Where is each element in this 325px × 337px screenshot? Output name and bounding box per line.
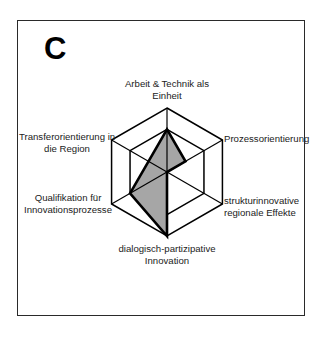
axis-label-line: Transferorientierung in bbox=[19, 131, 115, 143]
axis-label-dialogisch: dialogisch-partizipative Innovation bbox=[104, 243, 230, 267]
radar-spokes bbox=[112, 108, 223, 236]
axis-label-prozessorientierung: Prozessorientierung bbox=[224, 133, 309, 145]
axis-label-line: Einheit bbox=[104, 90, 230, 102]
axis-label-line: Innovation bbox=[104, 255, 230, 267]
axis-label-line: Qualifikation für bbox=[24, 192, 112, 204]
axis-label-line: Prozessorientierung bbox=[224, 133, 309, 145]
axis-label-line: Arbeit & Technik als bbox=[104, 78, 230, 90]
radar-chart bbox=[0, 0, 325, 337]
axis-label-line: die Region bbox=[19, 143, 115, 155]
axis-label-line: dialogisch-partizipative bbox=[104, 243, 230, 255]
axis-label-strukturinnovative: strukturinnovative regionale Effekte bbox=[224, 195, 294, 219]
axis-label-line: regionale Effekte bbox=[224, 207, 294, 219]
axis-label-line: Innovationsprozesse bbox=[24, 204, 112, 216]
axis-label-arbeit-technik: Arbeit & Technik als Einheit bbox=[104, 78, 230, 102]
axis-label-qualifikation: Qualifikation für Innovationsprozesse bbox=[24, 192, 112, 216]
axis-label-line: strukturinnovative bbox=[224, 195, 294, 207]
axis-label-transferorientierung: Transferorientierung in die Region bbox=[19, 131, 115, 155]
